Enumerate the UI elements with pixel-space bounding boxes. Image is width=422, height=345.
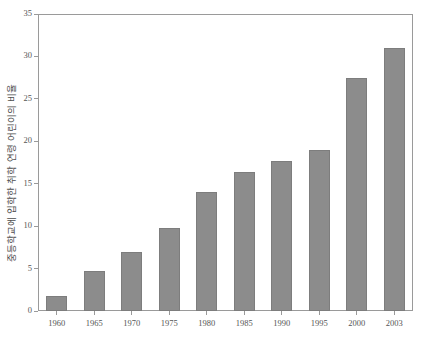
x-axis-tick-mark [281,311,282,315]
y-axis-tick-mark [34,311,38,312]
x-axis-tick-label: 1975 [151,318,187,329]
y-axis-tick-mark [34,14,38,15]
x-axis-tick-label: 1970 [114,318,150,329]
bar [309,150,330,311]
y-axis-title-label: 중등학교에 입학한 취학 연령 어린이의 비율 [7,84,17,261]
bars-layer [38,14,413,311]
x-axis-tick-label: 1985 [226,318,262,329]
y-axis-tick-label: 25 [24,93,33,104]
bar [346,78,367,311]
bar [46,296,67,311]
x-axis-tick-label: 2000 [339,318,375,329]
y-axis-tick-label: 5 [28,263,32,274]
x-axis-tick-label: 1980 [189,318,225,329]
x-axis-tick-mark [206,311,207,315]
bar-chart: 중등학교에 입학한 취학 연령 어린이의 비율 0510152025303519… [0,0,422,345]
y-axis-tick-mark [34,183,38,184]
y-axis-tick-label: 0 [28,305,32,316]
bar [234,172,255,311]
y-axis-tick-label: 15 [24,178,33,189]
bar [121,252,142,311]
x-axis-tick-label: 1995 [301,318,337,329]
x-axis-tick-mark [394,311,395,315]
x-axis-tick-mark [56,311,57,315]
y-axis-tick-mark [34,141,38,142]
x-axis-tick-mark [169,311,170,315]
x-axis-tick-label: 1960 [39,318,75,329]
y-axis-tick-mark [34,226,38,227]
y-axis-tick-label: 20 [24,135,33,146]
y-axis-tick-mark [34,268,38,269]
x-axis-tick-mark [244,311,245,315]
bar [384,48,405,311]
bar [196,192,217,311]
x-axis-tick-label: 1990 [264,318,300,329]
x-axis-tick-mark [319,311,320,315]
y-axis-tick-label: 35 [24,8,33,19]
x-axis-tick-mark [131,311,132,315]
x-axis-tick-label: 1965 [76,318,112,329]
bar [271,161,292,311]
y-axis-tick-label: 10 [24,220,33,231]
bar [84,271,105,311]
y-axis-tick-mark [34,56,38,57]
x-axis-tick-label: 2003 [376,318,412,329]
bar [159,228,180,311]
x-axis-tick-mark [356,311,357,315]
y-axis-tick-mark [34,98,38,99]
y-axis-tick-label: 30 [24,50,33,61]
x-axis-tick-mark [94,311,95,315]
y-axis-title: 중등학교에 입학한 취학 연령 어린이의 비율 [0,0,24,345]
